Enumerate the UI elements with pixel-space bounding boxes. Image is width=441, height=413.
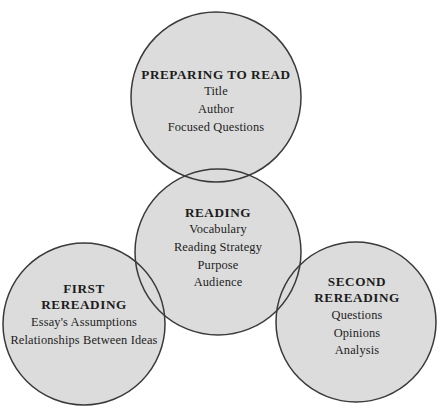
venn-diagram: PREPARING TO READ Title Author Focused Q… xyxy=(0,0,441,413)
venn-circles-graphic xyxy=(0,0,441,413)
circle-reading xyxy=(135,169,301,335)
circle-preparing-to-read xyxy=(131,12,301,182)
circle-fills xyxy=(3,12,436,405)
